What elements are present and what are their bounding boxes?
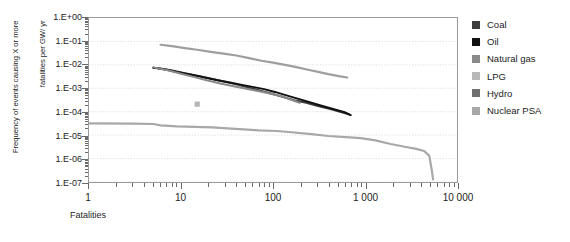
legend-label: Hydro (487, 88, 512, 99)
x-axis-tick (245, 183, 246, 187)
y-axis-tick-label: 1.E-02 (40, 59, 82, 69)
legend-label: Coal (487, 19, 507, 30)
x-axis-tick-label: 10 000 (443, 192, 474, 203)
x-axis-tick (345, 183, 346, 187)
x-axis-tick (437, 183, 438, 187)
y-axis-tick-label: 1.E-04 (40, 107, 82, 117)
x-axis-tick (351, 183, 352, 187)
x-axis-tick (357, 183, 358, 187)
x-axis-tick (454, 183, 455, 187)
y-axis-tick-label: 1.E-06 (40, 154, 82, 164)
y-axis-tick-label: 1.E-07 (40, 178, 82, 188)
x-axis-tick (444, 183, 445, 187)
y-axis-title-line1: Frequency of events causing X or more (11, 21, 20, 154)
legend-swatch-icon (472, 89, 480, 97)
legend-item: LPG (472, 68, 568, 85)
y-axis-tick-label: 1.E-05 (40, 131, 82, 141)
x-axis-tick (172, 183, 173, 187)
legend-swatch-icon (472, 55, 480, 63)
x-axis-tick (160, 183, 161, 187)
x-axis-tick (225, 183, 226, 187)
x-axis-tick (269, 183, 270, 187)
x-axis-tick-label: 1 000 (353, 192, 378, 203)
legend-swatch-icon (472, 38, 480, 46)
x-axis-tick (301, 183, 302, 187)
x-axis-tick (329, 183, 330, 187)
x-axis-tick (153, 183, 154, 187)
legend-swatch-icon (472, 21, 480, 29)
x-axis-tick (252, 183, 253, 187)
legend-label: Nuclear PSA (487, 105, 541, 116)
legend-label: LPG (487, 71, 506, 82)
x-axis-tick (181, 183, 182, 189)
x-axis-tick-label: 100 (265, 192, 282, 203)
x-axis-tick (208, 183, 209, 187)
legend-item: Hydro (472, 85, 568, 102)
data-marker-lpg (195, 102, 200, 107)
x-axis-tick-label: 1 (85, 192, 91, 203)
x-axis-tick (338, 183, 339, 187)
x-axis-tick (116, 183, 117, 187)
plot-area (88, 17, 458, 183)
legend-item: Coal (472, 16, 568, 33)
legend-item: Oil (472, 33, 568, 50)
chart-figure: Frequency of events causing X or more fa… (0, 0, 570, 242)
x-axis-tick (430, 183, 431, 187)
x-axis-tick (361, 183, 362, 187)
x-axis-tick (317, 183, 318, 187)
x-axis-tick (410, 183, 411, 187)
x-axis-tick (144, 183, 145, 187)
x-axis-tick (273, 183, 274, 189)
y-axis-tick-label: 1.E+00 (40, 12, 82, 22)
chart-legend: CoalOilNatural gasLPGHydroNuclear PSA (472, 16, 568, 119)
x-axis-tick-label: 10 (175, 192, 186, 203)
series-line-hydro (161, 45, 348, 78)
x-axis-tick (132, 183, 133, 187)
legend-item: Natural gas (472, 50, 568, 67)
series-line-nuclear-psa (89, 123, 433, 179)
x-axis-tick (88, 183, 89, 189)
legend-label: Natural gas (487, 53, 536, 64)
legend-swatch-icon (472, 107, 480, 115)
x-axis-tick (236, 183, 237, 187)
legend-item: Nuclear PSA (472, 102, 568, 119)
x-axis-title: Fatalities (70, 210, 106, 220)
x-axis-tick (166, 183, 167, 187)
legend-swatch-icon (472, 72, 480, 80)
x-axis-tick (366, 183, 367, 189)
legend-label: Oil (487, 36, 499, 47)
plot-svg (89, 18, 457, 182)
x-axis-tick (393, 183, 394, 187)
x-axis-tick (264, 183, 265, 187)
x-axis-tick-marks (88, 183, 458, 190)
y-axis-tick-label: 1.E-01 (40, 36, 82, 46)
x-axis-tick (259, 183, 260, 187)
x-axis-tick (421, 183, 422, 187)
x-axis-tick-labels: 1101001 00010 000 (0, 192, 570, 208)
series-line-natural-gas (153, 67, 299, 102)
x-axis-tick (176, 183, 177, 187)
y-axis-tick-label: 1.E-03 (40, 83, 82, 93)
x-axis-tick (449, 183, 450, 187)
x-axis-tick (458, 183, 459, 189)
